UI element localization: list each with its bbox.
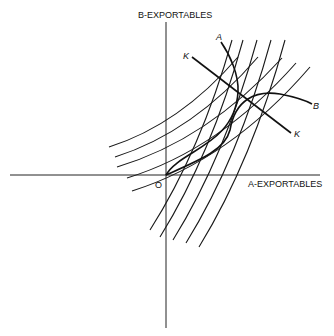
- y-axis-label: B-EXPORTABLES: [138, 10, 212, 20]
- steep-curve: [199, 40, 285, 247]
- steep-curve: [150, 40, 232, 230]
- k-start-label: K: [183, 51, 190, 61]
- curve-b-label: B: [313, 101, 319, 111]
- offer-curve-diagram: B-EXPORTABLES A-EXPORTABLES O A B K K: [0, 0, 334, 336]
- x-axis-label: A-EXPORTABLES: [248, 179, 322, 189]
- origin-label: O: [155, 180, 162, 190]
- curve-a-label: A: [215, 32, 222, 42]
- flat-curve: [132, 67, 310, 191]
- steep-curve-family: [150, 40, 285, 247]
- steep-curve: [173, 40, 257, 240]
- steep-curve: [186, 40, 271, 243]
- diagram-stage: B-EXPORTABLES A-EXPORTABLES O A B K K: [0, 0, 334, 336]
- line-kk: [192, 57, 291, 133]
- k-end-label: K: [294, 129, 301, 139]
- steep-curve: [160, 40, 243, 237]
